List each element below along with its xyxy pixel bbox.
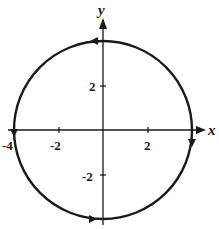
x-tick-label: -2: [50, 138, 61, 153]
y-tick-label: 2: [89, 79, 96, 94]
y-axis-arrow-icon: [99, 18, 107, 29]
x-tick-label: 2: [144, 138, 151, 153]
orientation-arrow-icon: [89, 215, 97, 223]
x-axis-label: x: [207, 122, 216, 138]
x-axis-arrow-icon: [196, 126, 206, 134]
orientation-arrow-icon: [188, 139, 196, 147]
graph: x y -4 -2 2 2 -2: [0, 0, 219, 229]
y-axis-label: y: [96, 2, 105, 18]
y-tick-label: -2: [82, 169, 93, 184]
x-tick-label: -4: [2, 138, 13, 153]
orientation-arrow-icon: [90, 37, 98, 45]
orientation-arrow-icon: [10, 129, 18, 137]
